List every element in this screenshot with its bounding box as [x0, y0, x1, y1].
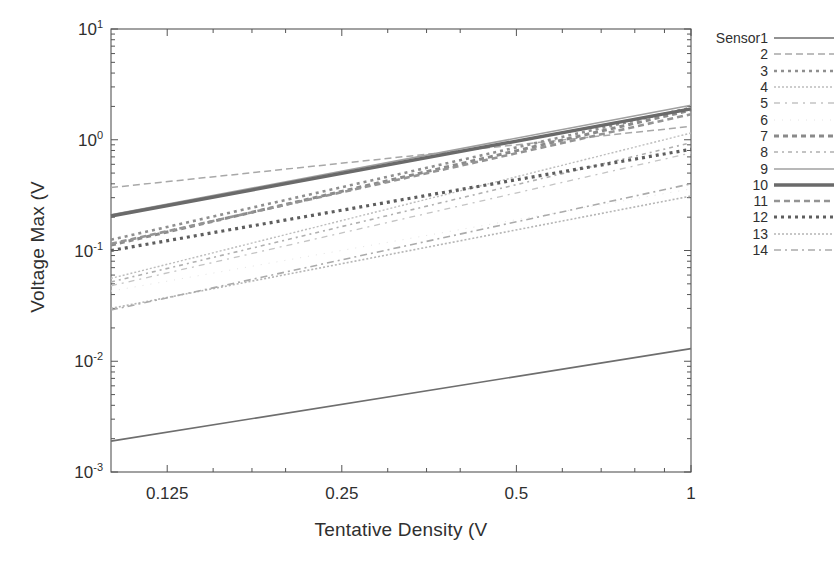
plot-frame [111, 29, 691, 472]
data-series-line [111, 108, 691, 240]
legend-item-label: 13 [752, 226, 773, 242]
legend-item[interactable]: 5 [700, 95, 835, 111]
legend-line-swatch [773, 129, 835, 143]
data-series-line [111, 184, 691, 310]
y-axis-tick-label: 10-3 [43, 461, 103, 483]
legend-line-swatch [773, 80, 835, 94]
legend-line-swatch [773, 210, 835, 224]
legend-line-swatch [773, 113, 835, 127]
legend-item[interactable]: 14 [700, 242, 835, 258]
legend-item-label: 10 [752, 177, 773, 193]
data-series-group [111, 105, 691, 441]
x-axis-tick-label: 0.5 [471, 484, 561, 504]
y-axis-tick-label: 101 [43, 18, 103, 40]
legend-item[interactable]: 4 [700, 79, 835, 95]
legend-item-label: 5 [760, 95, 773, 111]
legend-item[interactable]: 11 [700, 193, 835, 209]
legend-item[interactable]: 6 [700, 111, 835, 127]
legend-line-swatch [773, 64, 835, 78]
legend-item[interactable]: 13 [700, 226, 835, 242]
data-series-line [111, 349, 691, 441]
legend-item-label: 12 [752, 209, 773, 225]
y-axis-tick-label: 100 [43, 129, 103, 151]
legend-item-label: Sensor1 [716, 30, 773, 46]
x-axis-tick-label: 1 [646, 484, 736, 504]
legend-line-swatch [773, 96, 835, 110]
legend-item-label: 4 [760, 79, 773, 95]
legend-item-label: 7 [760, 128, 773, 144]
x-axis-label: Tentative Density (V [111, 519, 691, 541]
legend-item[interactable]: 8 [700, 144, 835, 160]
legend-item[interactable]: 2 [700, 46, 835, 62]
figure-container: Voltage Max (V Tentative Density (V 10-3… [0, 0, 835, 561]
legend-item[interactable]: 10 [700, 177, 835, 193]
legend-line-swatch [773, 243, 835, 257]
data-series-line [111, 133, 691, 278]
legend-line-swatch [773, 227, 835, 241]
legend-item-label: 2 [760, 46, 773, 62]
legend-line-swatch [773, 162, 835, 176]
legend-item-label: 9 [760, 161, 773, 177]
legend-item[interactable]: Sensor1 [700, 30, 835, 46]
x-axis-tick-label: 0.25 [297, 484, 387, 504]
legend-line-swatch [773, 178, 835, 192]
legend-item[interactable]: 7 [700, 128, 835, 144]
data-series-line [111, 110, 691, 245]
legend-line-swatch [773, 31, 835, 45]
legend-item[interactable]: 9 [700, 160, 835, 176]
y-axis-tick-label: 10-1 [43, 240, 103, 262]
y-axis-tick-label: 10-2 [43, 350, 103, 372]
legend-line-swatch [773, 145, 835, 159]
legend-item-label: 11 [753, 193, 773, 209]
legend-line-swatch [773, 194, 835, 208]
data-series-line [111, 189, 691, 291]
x-axis-tick-label: 0.125 [122, 484, 212, 504]
chart-legend: Sensor1234567891011121314 [700, 30, 835, 258]
legend-item-label: 3 [760, 63, 773, 79]
legend-item-label: 8 [760, 144, 773, 160]
data-series-line [111, 153, 691, 286]
legend-item[interactable]: 12 [700, 209, 835, 225]
legend-item[interactable]: 3 [700, 63, 835, 79]
legend-line-swatch [773, 47, 835, 61]
legend-item-label: 6 [760, 112, 773, 128]
axis-ticks [111, 29, 691, 472]
legend-item-label: 14 [752, 242, 773, 258]
